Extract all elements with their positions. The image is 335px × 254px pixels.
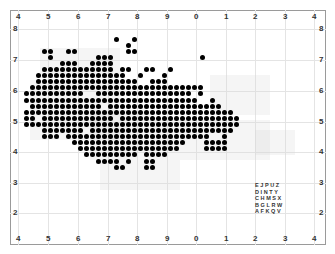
- record-dot: [60, 79, 65, 84]
- record-dot: [150, 122, 155, 127]
- record-dot: [144, 85, 149, 90]
- record-dot: [132, 122, 137, 127]
- x-axis-label-bottom: 0: [194, 235, 198, 243]
- x-axis-label-top: 5: [46, 13, 50, 21]
- record-dot: [186, 122, 191, 127]
- record-dot: [180, 140, 185, 145]
- record-dot: [30, 104, 35, 109]
- record-dot: [204, 146, 209, 151]
- record-dot: [120, 85, 125, 90]
- record-dot: [216, 104, 221, 109]
- record-dot: [132, 104, 137, 109]
- record-dot: [126, 152, 131, 157]
- record-dot: [48, 73, 53, 78]
- record-dot: [90, 67, 95, 72]
- record-dot: [90, 61, 95, 66]
- record-dot: [54, 104, 59, 109]
- record-dot: [48, 49, 53, 54]
- record-dot: [72, 79, 77, 84]
- record-dot: [108, 79, 113, 84]
- record-dot: [156, 146, 161, 151]
- record-dot: [168, 67, 173, 72]
- y-axis-label-right: 8: [319, 25, 323, 33]
- record-dot: [234, 122, 239, 127]
- record-dot: [210, 110, 215, 115]
- record-dot: [84, 104, 89, 109]
- record-dot: [84, 116, 89, 121]
- record-dot: [84, 79, 89, 84]
- land-shading: [255, 130, 295, 155]
- legend-row: EJPUZ: [255, 182, 284, 189]
- record-dot: [138, 104, 143, 109]
- record-dot: [102, 110, 107, 115]
- record-dot: [120, 146, 125, 151]
- record-dot: [48, 134, 53, 139]
- record-dot: [120, 79, 125, 84]
- record-dot: [30, 91, 35, 96]
- record-dot: [174, 104, 179, 109]
- record-dot: [174, 128, 179, 133]
- record-dot: [102, 134, 107, 139]
- record-dot: [114, 110, 119, 115]
- record-dot: [174, 146, 179, 151]
- record-dot: [90, 73, 95, 78]
- record-dot: [42, 116, 47, 121]
- record-dot: [42, 104, 47, 109]
- record-dot: [78, 85, 83, 90]
- record-dot: [132, 140, 137, 145]
- record-dot: [102, 159, 107, 164]
- record-dot: [192, 85, 197, 90]
- record-dot: [216, 140, 221, 145]
- record-dot: [156, 128, 161, 133]
- record-dot: [108, 85, 113, 90]
- record-dot: [168, 91, 173, 96]
- record-dot: [186, 91, 191, 96]
- record-dot: [192, 98, 197, 103]
- record-dot: [198, 122, 203, 127]
- record-dot: [96, 152, 101, 157]
- record-dot: [162, 122, 167, 127]
- record-dot: [150, 67, 155, 72]
- record-dot: [90, 104, 95, 109]
- x-axis-label-top: 3: [283, 13, 287, 21]
- record-dot: [96, 98, 101, 103]
- record-dot: [72, 116, 77, 121]
- record-dot: [72, 122, 77, 127]
- record-dot: [84, 85, 89, 90]
- record-dot: [168, 146, 173, 151]
- record-dot: [138, 140, 143, 145]
- record-dot: [102, 152, 107, 157]
- record-dot: [114, 122, 119, 127]
- record-dot: [36, 98, 41, 103]
- record-dot: [228, 122, 233, 127]
- record-dot: [48, 85, 53, 90]
- record-dot: [42, 49, 47, 54]
- record-dot: [84, 67, 89, 72]
- record-dot: [24, 122, 29, 127]
- record-dot: [72, 128, 77, 133]
- record-dot: [48, 122, 53, 127]
- record-dot: [168, 134, 173, 139]
- record-dot: [138, 73, 143, 78]
- record-dot: [102, 122, 107, 127]
- record-dot: [120, 116, 125, 121]
- record-dot: [78, 79, 83, 84]
- record-dot: [66, 98, 71, 103]
- record-dot: [156, 134, 161, 139]
- record-dot: [108, 61, 113, 66]
- record-dot: [24, 116, 29, 121]
- record-dot: [162, 110, 167, 115]
- record-dot: [54, 98, 59, 103]
- record-dot: [60, 110, 65, 115]
- record-dot: [144, 116, 149, 121]
- record-dot: [42, 67, 47, 72]
- record-dot: [144, 104, 149, 109]
- record-dot: [132, 98, 137, 103]
- record-dot: [156, 85, 161, 90]
- record-dot: [96, 73, 101, 78]
- record-dot: [222, 122, 227, 127]
- record-dot: [108, 98, 113, 103]
- x-axis-label-bottom: 5: [46, 235, 50, 243]
- record-dot: [42, 128, 47, 133]
- record-dot: [144, 140, 149, 145]
